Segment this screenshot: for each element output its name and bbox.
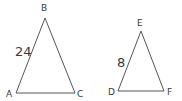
vertex-label-d: D	[108, 87, 115, 97]
triangle-abc: B A C 24	[6, 3, 83, 99]
vertex-label-e: E	[137, 18, 143, 28]
vertex-label-f: F	[167, 87, 172, 97]
side-length-ab: 24	[15, 44, 32, 59]
vertex-label-c: C	[77, 89, 83, 99]
vertex-label-b: B	[41, 3, 47, 13]
similar-triangles-diagram: B A C 24 E D F 8	[0, 0, 182, 101]
triangle-def: E D F 8	[108, 18, 172, 97]
vertex-label-a: A	[6, 89, 13, 99]
side-length-de: 8	[117, 55, 125, 70]
